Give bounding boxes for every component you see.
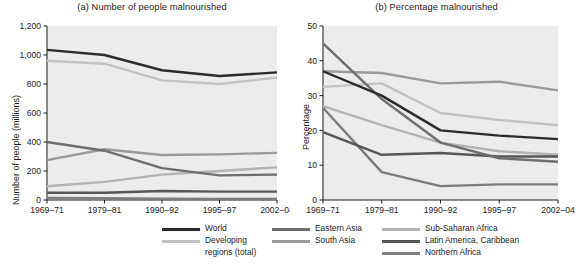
y-tick-label: 800 bbox=[27, 79, 42, 89]
legend-swatch-line-icon bbox=[382, 228, 420, 231]
legend-label: Northern Africa bbox=[425, 247, 481, 258]
legend-label: South Asia bbox=[315, 235, 355, 246]
y-tick-label: 1,000 bbox=[19, 50, 41, 60]
chart-panel-a: (a) Number of people malnourished Number… bbox=[0, 0, 290, 222]
legend-swatch-line-icon bbox=[162, 228, 200, 231]
x-tick-label: 2002–04 bbox=[260, 205, 290, 215]
panel-a-plot: 02004006008001,0001,2001969–711979–81199… bbox=[0, 0, 290, 222]
legend-swatch-line-icon bbox=[272, 228, 310, 231]
x-tick-label: 1979–81 bbox=[365, 205, 399, 215]
x-tick-label: 2002–04 bbox=[541, 205, 575, 215]
y-tick-label: 50 bbox=[307, 21, 317, 31]
x-tick-label: 1969–71 bbox=[30, 205, 64, 215]
legend-label: Eastern Asia bbox=[315, 223, 362, 234]
legend-label: World bbox=[205, 223, 227, 234]
x-tick-label: 1990–92 bbox=[145, 205, 179, 215]
y-tick-label: 0 bbox=[312, 195, 317, 205]
legend-label-line2: regions (total) bbox=[205, 247, 256, 258]
legend-swatch-line-icon bbox=[272, 240, 310, 243]
legend-label: Latin America, Caribbean bbox=[425, 235, 519, 246]
legend-swatch-line-icon bbox=[382, 252, 420, 255]
x-tick-label: 1990–92 bbox=[424, 205, 458, 215]
legend-label: Sub-Saharan Africa bbox=[425, 223, 498, 234]
x-tick-label: 1979–81 bbox=[88, 205, 122, 215]
malnourishment-figure: (a) Number of people malnourished Number… bbox=[0, 0, 579, 273]
y-tick-label: 10 bbox=[307, 160, 317, 170]
y-tick-label: 600 bbox=[27, 108, 42, 118]
y-tick-label: 200 bbox=[27, 166, 42, 176]
legend-swatch-line-icon bbox=[162, 240, 200, 243]
series-line-northern-africa bbox=[47, 198, 277, 199]
y-tick-label: 40 bbox=[307, 56, 317, 66]
chart-panel-b: (b) Percentage malnourished 010203040501… bbox=[290, 0, 579, 222]
panel-b-plot: 010203040501969–711979–811990–921995–972… bbox=[290, 0, 579, 222]
y-tick-label: 30 bbox=[307, 91, 317, 101]
x-tick-label: 1995–97 bbox=[203, 205, 237, 215]
legend-label: Developing bbox=[205, 235, 247, 246]
y-tick-label: 0 bbox=[36, 195, 41, 205]
x-tick-label: 1969–71 bbox=[306, 205, 340, 215]
x-tick-label: 1995–97 bbox=[483, 205, 517, 215]
y-tick-label: 1,200 bbox=[19, 21, 41, 31]
panel-b-y-axis-label: Percentage bbox=[301, 104, 311, 150]
chart-legend: WorldDevelopingregions (total) Eastern A… bbox=[0, 224, 579, 273]
legend-swatch-line-icon bbox=[382, 240, 420, 243]
y-tick-label: 400 bbox=[27, 137, 42, 147]
